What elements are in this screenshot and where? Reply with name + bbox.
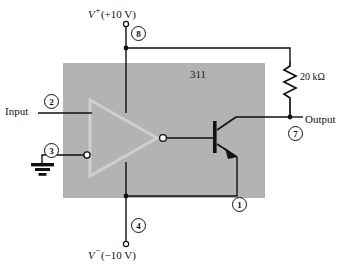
vminus-value: (−10 V): [101, 249, 136, 261]
resistor-value-label: 20 kΩ: [300, 72, 325, 82]
vminus-supply-label: V−(−10 V): [88, 247, 136, 261]
vminus-terminal-circle: [123, 241, 128, 246]
pin-number-2: 2: [44, 94, 59, 109]
chip-body: [63, 63, 265, 198]
output-label: Output: [305, 114, 336, 125]
ground-symbol: [31, 163, 54, 176]
vplus-to-resistor-wire: [126, 48, 290, 62]
pin3-terminal-circle: [84, 152, 90, 158]
circuit-diagram-figure: V+(+10 V) V−(−10 V) Input Output 20 kΩ 3…: [0, 0, 350, 266]
vplus-symbol: V: [88, 8, 95, 20]
transistor-base-bar: [213, 121, 217, 153]
chip-part-number-label: 311: [190, 69, 206, 80]
vplus-terminal-circle: [123, 21, 128, 26]
pin-number-7: 7: [288, 126, 303, 141]
vplus-supply-label: V+(+10 V): [88, 6, 136, 20]
pin-number-1: 1: [232, 197, 247, 212]
internal-output-node-circle: [160, 135, 167, 142]
pin-number-4: 4: [131, 218, 146, 233]
pull-up-resistor-symbol: [284, 62, 296, 117]
pin-number-8: 8: [131, 26, 146, 41]
pin-number-3: 3: [44, 143, 59, 158]
vplus-value: (+10 V): [101, 8, 136, 20]
vminus-symbol: V: [88, 249, 95, 261]
input-label: Input: [5, 106, 28, 117]
